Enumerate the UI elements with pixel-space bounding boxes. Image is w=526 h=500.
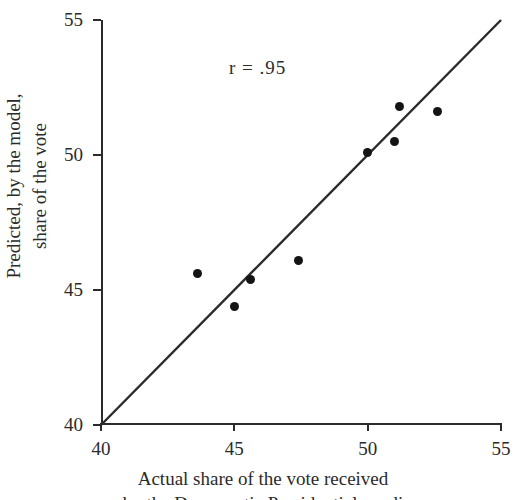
y-tick-50 bbox=[93, 154, 101, 156]
data-point bbox=[193, 269, 202, 278]
plot-area: r = .95 bbox=[101, 20, 501, 425]
x-tick-label-45: 45 bbox=[212, 439, 256, 458]
x-tick-label-50: 50 bbox=[346, 439, 390, 458]
scatter-plot-figure: r = .95 40455055 40455055 Predicted, by … bbox=[0, 0, 526, 500]
identity-reference-line bbox=[101, 20, 501, 425]
x-tick-label-40: 40 bbox=[79, 439, 123, 458]
y-axis-title-line-2: share of the vote bbox=[27, 0, 53, 381]
data-point bbox=[363, 148, 372, 157]
data-point bbox=[294, 256, 303, 265]
data-point bbox=[390, 137, 399, 146]
x-tick-50 bbox=[367, 423, 369, 431]
data-point bbox=[230, 302, 239, 311]
x-axis-title-line-2: by the Democratic Presidential candi bbox=[0, 491, 526, 500]
data-point bbox=[246, 275, 255, 284]
correlation-annotation: r = .95 bbox=[229, 57, 286, 79]
x-axis-title-line-1: Actual share of the vote received bbox=[0, 466, 526, 491]
data-point bbox=[433, 107, 442, 116]
x-tick-45 bbox=[233, 423, 235, 431]
data-point bbox=[395, 102, 404, 111]
x-axis-title: Actual share of the vote received by the… bbox=[0, 466, 526, 500]
x-tick-40 bbox=[100, 423, 102, 431]
y-tick-label-40: 40 bbox=[43, 415, 83, 434]
y-axis-title: Predicted, by the model, share of the vo… bbox=[1, 0, 53, 381]
y-axis-title-line-1: Predicted, by the model, bbox=[1, 0, 27, 381]
y-tick-55 bbox=[93, 19, 101, 21]
x-tick-55 bbox=[500, 423, 502, 431]
x-tick-label-55: 55 bbox=[479, 439, 523, 458]
y-tick-45 bbox=[93, 289, 101, 291]
